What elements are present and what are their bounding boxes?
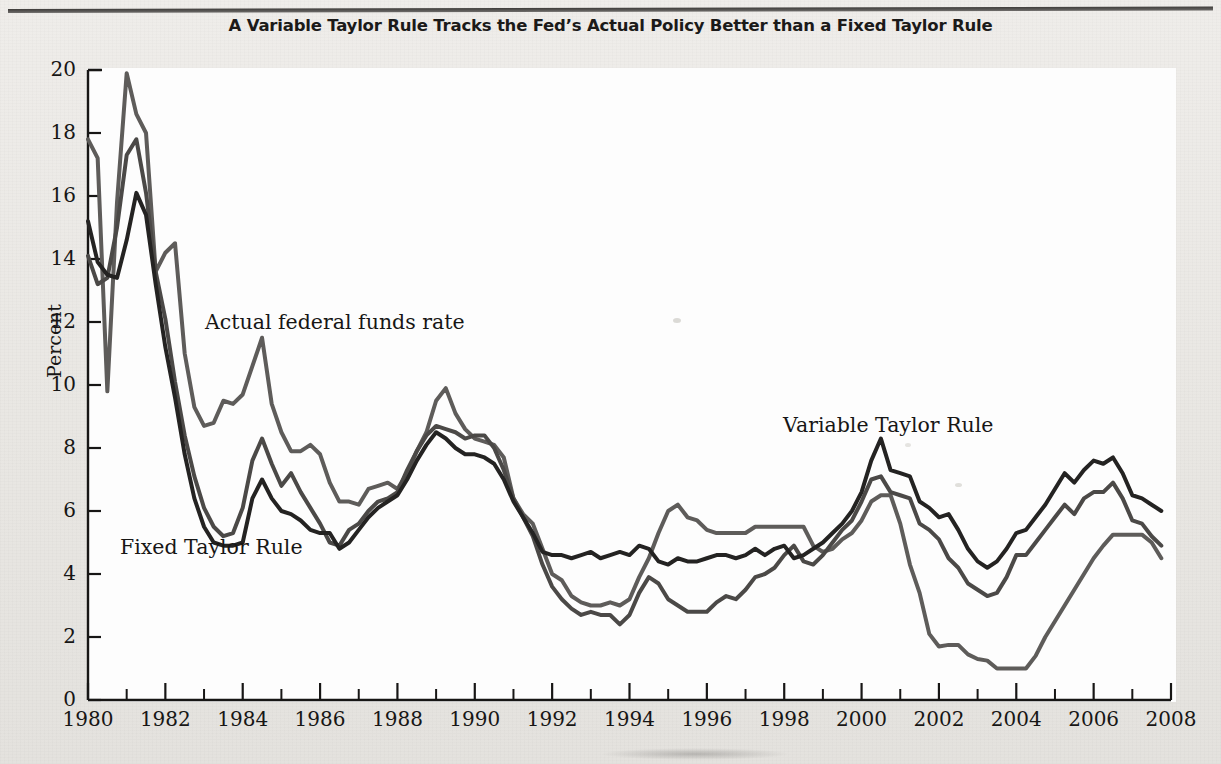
x-tick-label: 1984 [203,707,283,731]
y-tick-label: 8 [10,435,76,459]
x-tick-label: 1980 [48,707,128,731]
y-tick-label: 6 [10,498,76,522]
line-chart-canvas [0,0,1221,764]
x-tick-label: 1986 [280,707,360,731]
annotation-actual-federal-funds-rate: Actual federal funds rate [205,310,465,334]
y-tick-label: 16 [10,183,76,207]
x-tick-label: 1990 [435,707,515,731]
annotation-fixed-taylor-rule: Fixed Taylor Rule [120,535,303,559]
x-tick-label: 2004 [976,707,1056,731]
series-line-actual-federal-funds-rate [88,73,1161,668]
x-tick-label: 1982 [125,707,205,731]
x-tick-label: 1992 [512,707,592,731]
x-tick-label: 2002 [899,707,979,731]
y-tick-label: 14 [10,246,76,270]
chart-page: A Variable Taylor Rule Tracks the Fed’s … [0,0,1221,764]
axis-ticks [88,70,1171,700]
y-tick-label: 10 [10,372,76,396]
annotation-variable-taylor-rule: Variable Taylor Rule [783,413,993,437]
data-series [88,73,1161,668]
x-tick-label: 2008 [1131,707,1211,731]
y-tick-label: 20 [10,57,76,81]
x-tick-label: 1998 [744,707,824,731]
x-tick-label: 1996 [667,707,747,731]
x-tick-label: 2006 [1054,707,1134,731]
x-tick-label: 1994 [590,707,670,731]
x-tick-label: 1988 [357,707,437,731]
y-tick-label: 18 [10,120,76,144]
y-tick-label: 12 [10,309,76,333]
y-tick-label: 4 [10,561,76,585]
y-tick-label: 2 [10,624,76,648]
axis-lines [88,70,1171,700]
x-tick-label: 2000 [822,707,902,731]
